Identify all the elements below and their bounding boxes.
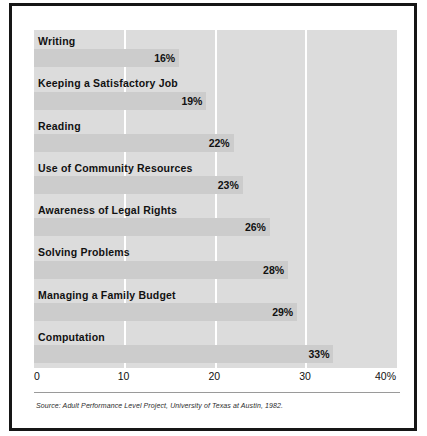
bar-value-label: 28% [258, 264, 284, 276]
bar-row: Managing a Family Budget29% [34, 284, 397, 326]
bar [34, 345, 333, 363]
category-label: Computation [38, 331, 105, 343]
bar-row: Writing16% [34, 30, 397, 72]
bar-row: Reading22% [34, 115, 397, 157]
bar-value-label: 29% [267, 306, 293, 318]
bar-row: Use of Community Resources23% [34, 157, 397, 199]
bar-value-label: 16% [149, 52, 175, 64]
bar [34, 303, 297, 321]
bar-row: Awareness of Legal Rights26% [34, 199, 397, 241]
bar [34, 261, 288, 279]
bar [34, 176, 243, 194]
x-tick-label-30: 30 [299, 370, 311, 382]
bar [34, 218, 270, 236]
x-axis: 010203040% [34, 370, 397, 386]
chart-figure: Writing16%Keeping a Satisfactory Job19%R… [9, 3, 417, 431]
bar-row: Keeping a Satisfactory Job19% [34, 72, 397, 114]
x-tick-label-10: 10 [118, 370, 130, 382]
category-label: Reading [38, 120, 81, 132]
bar-row: Computation33% [34, 326, 397, 368]
x-tick-label-0: 0 [34, 370, 40, 382]
x-tick-label-40: 40% [375, 370, 396, 382]
bar-value-label: 19% [176, 95, 202, 107]
plot-area: Writing16%Keeping a Satisfactory Job19%R… [34, 30, 397, 368]
category-label: Solving Problems [38, 246, 130, 258]
bar-value-label: 26% [240, 221, 266, 233]
source-note: Source: Adult Performance Level Project,… [36, 402, 283, 409]
category-label: Writing [38, 35, 75, 47]
category-label: Managing a Family Budget [38, 289, 176, 301]
bar-value-label: 23% [213, 179, 239, 191]
category-label: Use of Community Resources [38, 162, 193, 174]
category-label: Awareness of Legal Rights [38, 204, 177, 216]
bar-row: Solving Problems28% [34, 241, 397, 283]
bar-value-label: 22% [204, 137, 230, 149]
bar-value-label: 33% [303, 348, 329, 360]
x-tick-label-20: 20 [209, 370, 221, 382]
footer-divider [34, 392, 400, 393]
category-label: Keeping a Satisfactory Job [38, 77, 178, 89]
